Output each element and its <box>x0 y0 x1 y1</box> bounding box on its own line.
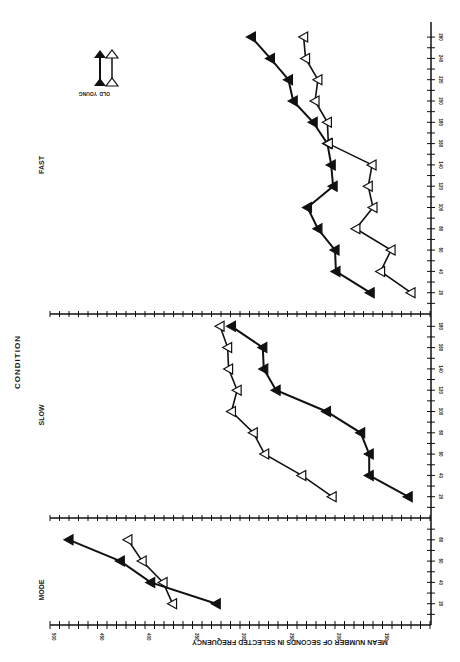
value-tick-label: 450 <box>99 633 104 641</box>
time-tick-label: 160 <box>438 140 443 148</box>
data-point-young <box>115 556 124 566</box>
data-point-old <box>299 32 308 42</box>
panel-label-mode: MODE <box>38 579 45 600</box>
axes: 5004504003503002502001502040608020406080… <box>50 22 443 641</box>
time-tick-label: 160 <box>438 344 443 352</box>
time-tick-label: 60 <box>438 559 443 565</box>
time-tick-label: 60 <box>438 452 443 458</box>
legend-marker-young-top <box>94 50 106 58</box>
panel-label-fast: FAST <box>38 155 45 174</box>
value-tick-label: 400 <box>146 633 151 641</box>
time-tick-label: 180 <box>438 323 443 331</box>
time-tick-label: 40 <box>438 580 443 586</box>
time-tick-label: 80 <box>438 430 443 436</box>
data-point-young <box>365 288 374 298</box>
data-point-old <box>260 449 269 459</box>
time-tick-label: 220 <box>438 76 443 84</box>
legend-label-young: YOUNG <box>79 91 97 97</box>
time-tick-label: 260 <box>438 33 443 41</box>
data-point-young <box>302 203 311 213</box>
legend-marker-old-top <box>106 50 118 58</box>
data-point-young <box>271 385 280 395</box>
time-tick-label: 180 <box>438 119 443 127</box>
data-point-old <box>376 266 385 276</box>
time-tick-label: 40 <box>438 269 443 275</box>
legend-marker-young-bottom <box>94 78 106 86</box>
time-tick-label: 80 <box>438 226 443 232</box>
time-tick-label: 20 <box>438 494 443 500</box>
time-tick-label: 60 <box>438 248 443 254</box>
time-tick-label: 80 <box>438 537 443 543</box>
legend-label-old: OLD <box>99 91 110 97</box>
series-line-fast-young <box>251 37 370 293</box>
time-tick-label: 120 <box>438 182 443 190</box>
series-line-slow-old <box>220 326 332 496</box>
y-axis-label: MEAN NUMBER OF SECONDS IN SELECTED FREQU… <box>192 638 388 646</box>
chart-title: CONDITION <box>13 335 22 389</box>
data-point-old <box>123 535 132 545</box>
data-point-young <box>211 599 220 609</box>
data-point-old <box>363 181 372 191</box>
data-point-old <box>215 321 224 331</box>
time-tick-label: 140 <box>438 161 443 169</box>
time-tick-label: 140 <box>438 365 443 373</box>
data-point-old <box>310 96 319 106</box>
plot-area <box>64 32 415 609</box>
data-point-young <box>64 535 73 545</box>
data-point-old <box>168 599 177 609</box>
data-point-old <box>226 407 235 417</box>
time-tick-label: 240 <box>438 55 443 63</box>
time-tick-label: 20 <box>438 290 443 296</box>
data-point-young <box>226 321 235 331</box>
data-point-old <box>386 245 395 255</box>
data-point-young <box>356 428 365 438</box>
series-line-mode-young <box>69 540 216 604</box>
legend: YOUNG OLD <box>79 50 118 97</box>
data-point-young <box>313 224 322 234</box>
data-point-young <box>403 492 412 502</box>
time-tick-label: 100 <box>438 408 443 416</box>
data-point-young <box>321 407 330 417</box>
data-point-young <box>246 32 255 42</box>
time-tick-label: 100 <box>438 204 443 212</box>
time-tick-label: 20 <box>438 601 443 607</box>
data-point-old <box>297 470 306 480</box>
series-line-slow-young <box>231 326 408 496</box>
value-tick-label: 500 <box>51 633 56 641</box>
chart: 5004504003503002502001502040608020406080… <box>0 0 460 662</box>
time-tick-label: 200 <box>438 97 443 105</box>
data-point-old <box>351 224 360 234</box>
panel-label-slow: SLOW <box>38 404 45 425</box>
time-tick-label: 40 <box>438 473 443 479</box>
time-tick-label: 120 <box>438 386 443 394</box>
legend-marker-old-bottom <box>106 78 118 86</box>
data-point-old <box>137 556 146 566</box>
